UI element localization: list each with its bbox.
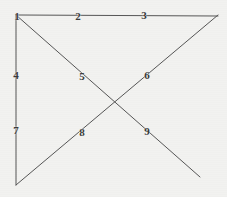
segment-label-5: 5 <box>75 71 89 82</box>
segment-label-3: 3 <box>137 10 151 21</box>
top-horizontal-line <box>16 15 218 16</box>
segment-label-2: 2 <box>71 11 85 22</box>
segment-label-4: 4 <box>9 70 23 81</box>
diagram-strokes <box>0 0 227 197</box>
segment-label-1: 1 <box>10 11 24 22</box>
segment-label-8: 8 <box>75 127 89 138</box>
segment-label-9: 9 <box>140 126 154 137</box>
segment-label-7: 7 <box>9 125 23 136</box>
segment-label-6: 6 <box>140 70 154 81</box>
ascending-diagonal-line <box>16 15 218 185</box>
line-diagram-figure: 1 2 3 4 5 6 7 8 9 <box>0 0 227 197</box>
descending-diagonal-line <box>16 15 200 177</box>
